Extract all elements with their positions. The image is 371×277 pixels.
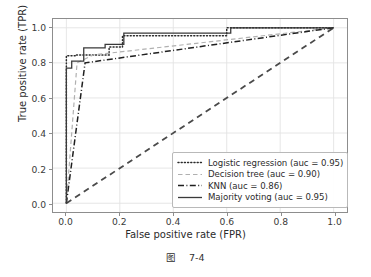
x-tick-mark <box>335 213 336 216</box>
x-tick-mark <box>227 213 228 216</box>
legend-line-swatch <box>177 180 203 191</box>
legend-line-swatch <box>177 192 203 203</box>
y-tick-mark <box>49 98 52 99</box>
caption-prefix: 图 <box>166 252 177 263</box>
y-tick-label: 0.0 <box>20 199 46 210</box>
legend-item: KNN (auc = 0.86) <box>177 180 342 192</box>
legend-item: Decision tree (auc = 0.90) <box>177 169 342 181</box>
legend-label: Decision tree (auc = 0.90) <box>208 169 320 179</box>
legend-item: Logistic regression (auc = 0.95) <box>177 157 342 169</box>
y-tick-label: 0.2 <box>20 163 46 174</box>
legend-label: Majority voting (auc = 0.95) <box>208 192 328 202</box>
y-tick-mark <box>49 133 52 134</box>
legend-line-swatch <box>177 169 203 180</box>
x-tick-label: 0.4 <box>166 216 181 227</box>
x-tick-mark <box>173 213 174 216</box>
y-tick-mark <box>49 62 52 63</box>
y-axis-label: True positive rate (TPR) <box>17 0 28 144</box>
legend-label: KNN (auc = 0.86) <box>208 181 282 191</box>
legend: Logistic regression (auc = 0.95)Decision… <box>172 152 348 208</box>
y-tick-mark <box>49 27 52 28</box>
x-tick-mark <box>119 213 120 216</box>
legend-label: Logistic regression (auc = 0.95) <box>208 158 343 168</box>
x-tick-label: 0.6 <box>220 216 235 227</box>
x-tick-label: 0.2 <box>112 216 127 227</box>
y-tick-mark <box>49 169 52 170</box>
figure-caption: 图7-4 <box>0 250 371 264</box>
x-tick-label: 0.0 <box>58 216 73 227</box>
x-tick-label: 0.8 <box>273 216 288 227</box>
x-tick-label: 1.0 <box>327 216 342 227</box>
x-tick-mark <box>281 213 282 216</box>
x-tick-mark <box>65 213 66 216</box>
figure-roc-curves: 0.00.20.40.60.81.00.00.20.40.60.81.0 Fal… <box>0 0 371 277</box>
legend-item: Majority voting (auc = 0.95) <box>177 192 342 204</box>
x-axis-label: False positive rate (FPR) <box>0 229 371 240</box>
y-tick-mark <box>49 204 52 205</box>
caption-number: 7-4 <box>189 252 205 263</box>
legend-line-swatch <box>177 157 203 168</box>
